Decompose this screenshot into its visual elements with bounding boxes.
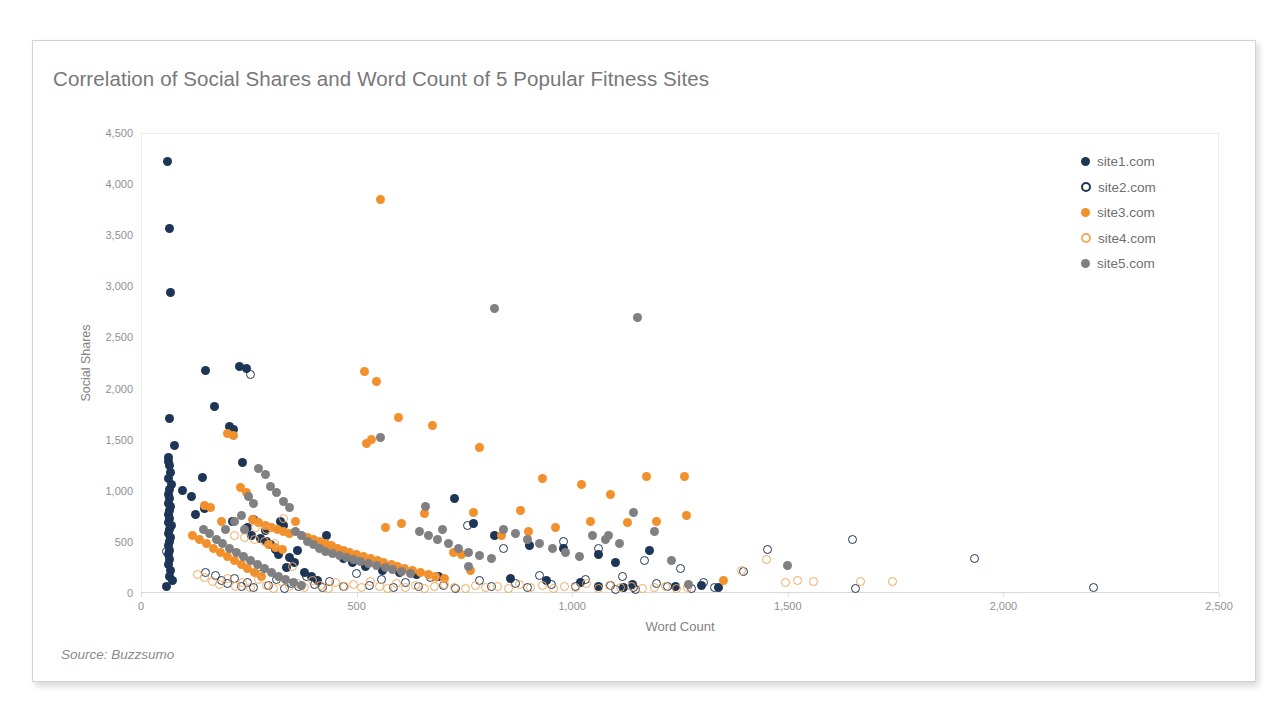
scatter-point bbox=[680, 472, 689, 481]
scatter-point bbox=[274, 550, 283, 559]
scatter-point bbox=[430, 574, 439, 583]
scatter-point bbox=[377, 575, 386, 584]
scatter-point bbox=[242, 488, 251, 497]
y-tick-label: 1,500 bbox=[105, 434, 133, 446]
scatter-point bbox=[499, 544, 508, 553]
scatter-point bbox=[588, 531, 597, 540]
scatter-point bbox=[202, 539, 211, 548]
legend-item-site1-com[interactable]: site1.com bbox=[1081, 149, 1241, 175]
scatter-point bbox=[261, 470, 270, 479]
x-axis-title: Word Count bbox=[141, 619, 1219, 634]
scatter-point bbox=[287, 579, 296, 588]
scatter-point bbox=[309, 540, 318, 549]
scatter-point bbox=[581, 575, 590, 584]
scatter-point bbox=[191, 510, 200, 519]
scatter-point bbox=[276, 517, 285, 526]
scatter-point bbox=[697, 581, 706, 590]
scatter-point bbox=[285, 582, 294, 591]
scatter-point bbox=[449, 548, 458, 557]
scatter-point bbox=[266, 540, 275, 549]
scatter-point bbox=[416, 568, 425, 577]
scatter-point bbox=[397, 567, 406, 576]
scatter-point bbox=[582, 579, 591, 588]
scatter-point bbox=[279, 527, 288, 536]
scatter-point bbox=[309, 535, 318, 544]
scatter-point bbox=[421, 502, 430, 511]
scatter-point bbox=[420, 509, 429, 518]
scatter-point bbox=[535, 539, 544, 548]
scatter-point bbox=[611, 585, 620, 594]
scatter-point bbox=[466, 566, 475, 575]
scatter-point bbox=[243, 523, 252, 532]
scatter-point bbox=[594, 550, 603, 559]
scatter-point bbox=[499, 525, 508, 534]
x-tick-label: 500 bbox=[347, 600, 365, 612]
scatter-point bbox=[168, 576, 177, 585]
scatter-point bbox=[431, 572, 440, 581]
scatter-point bbox=[251, 523, 260, 532]
scatter-point bbox=[165, 546, 174, 555]
scatter-point bbox=[303, 533, 312, 542]
scatter-point bbox=[164, 560, 173, 569]
scatter-point bbox=[809, 577, 818, 586]
scatter-point bbox=[411, 581, 420, 590]
scatter-point bbox=[303, 537, 312, 546]
scatter-point bbox=[586, 517, 595, 526]
scatter-point bbox=[231, 582, 240, 591]
scatter-point bbox=[571, 582, 580, 591]
scatter-point bbox=[471, 581, 480, 590]
scatter-point bbox=[793, 576, 802, 585]
scatter-point bbox=[525, 541, 534, 550]
scatter-point bbox=[215, 580, 224, 589]
scatter-point bbox=[506, 574, 515, 583]
scatter-point bbox=[293, 579, 302, 588]
scatter-point bbox=[278, 545, 287, 554]
scatter-point bbox=[360, 367, 369, 376]
scatter-point bbox=[244, 492, 253, 501]
scatter-point bbox=[218, 539, 227, 548]
scatter-point bbox=[316, 581, 325, 590]
scatter-point bbox=[464, 548, 473, 557]
scatter-point bbox=[359, 552, 368, 561]
scatter-point bbox=[331, 578, 340, 587]
legend-item-site4-com[interactable]: site4.com bbox=[1081, 226, 1241, 252]
scatter-point bbox=[164, 529, 173, 538]
scatter-point bbox=[272, 488, 281, 497]
scatter-point bbox=[629, 508, 638, 517]
scatter-point bbox=[322, 531, 331, 540]
scatter-point bbox=[164, 490, 173, 499]
scatter-point bbox=[650, 527, 659, 536]
scatter-point bbox=[293, 546, 302, 555]
scatter-point bbox=[388, 565, 397, 574]
scatter-point bbox=[321, 539, 330, 548]
legend-item-label: site4.com bbox=[1098, 231, 1156, 246]
scatter-point bbox=[340, 582, 349, 591]
scatter-point bbox=[223, 579, 232, 588]
scatter-point bbox=[671, 582, 680, 591]
scatter-point bbox=[201, 366, 210, 375]
legend-item-site3-com[interactable]: site3.com bbox=[1081, 200, 1241, 226]
scatter-point bbox=[166, 288, 175, 297]
x-tick-label: 1,000 bbox=[558, 600, 586, 612]
x-tick-label: 0 bbox=[138, 600, 144, 612]
scatter-point bbox=[253, 560, 262, 569]
scatter-point bbox=[394, 413, 403, 422]
y-tick-label: 3,500 bbox=[105, 229, 133, 241]
scatter-point bbox=[856, 577, 865, 586]
scatter-point bbox=[232, 548, 241, 557]
scatter-point bbox=[230, 556, 239, 565]
scatter-point bbox=[209, 544, 218, 553]
scatter-point bbox=[256, 570, 265, 579]
scatter-point bbox=[248, 515, 257, 524]
legend-item-site5-com[interactable]: site5.com bbox=[1081, 251, 1241, 277]
scatter-point bbox=[414, 582, 423, 591]
legend-item-site2-com[interactable]: site2.com bbox=[1081, 175, 1241, 201]
scatter-point bbox=[199, 525, 208, 534]
scatter-point bbox=[206, 503, 215, 512]
scatter-point bbox=[279, 497, 288, 506]
scatter-point bbox=[221, 525, 230, 534]
scatter-point bbox=[433, 535, 442, 544]
scatter-point bbox=[469, 508, 478, 517]
scatter-point bbox=[516, 506, 525, 515]
scatter-point bbox=[667, 556, 676, 565]
